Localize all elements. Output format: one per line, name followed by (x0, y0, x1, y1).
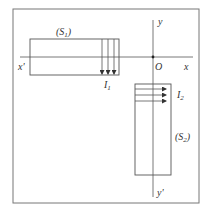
s2-label: (S2) (175, 131, 191, 144)
diagram-canvas: y x x' O y' (S1) I1 I2 (S2) (0, 0, 208, 213)
origin-label: O (155, 61, 162, 72)
s1-label: (S1) (56, 26, 72, 39)
x-pos-label: x (183, 61, 189, 72)
x-neg-label: x' (17, 61, 25, 72)
y-pos-label: y (157, 16, 163, 27)
origin-dot (152, 56, 155, 59)
y-neg-label: y' (156, 187, 164, 198)
i2-label: I2 (176, 89, 184, 102)
i1-label: I1 (103, 79, 111, 92)
